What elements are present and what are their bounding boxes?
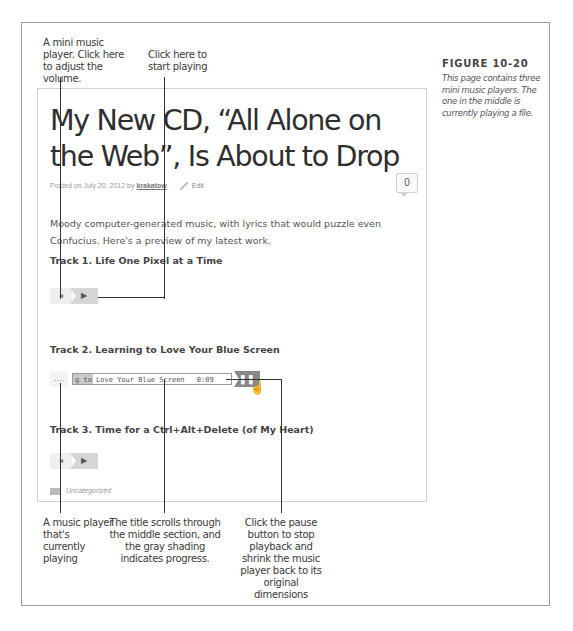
ticker-time: 0:09: [197, 376, 214, 384]
ticker-title: g to Love Your Blue Screen: [75, 376, 185, 384]
volume-icon[interactable]: ◂: [50, 453, 72, 469]
post-title[interactable]: My New CD, “All Alone on the Web”, Is Ab…: [50, 103, 420, 175]
callout-volume: A mini music player. Click here to adjus…: [43, 37, 133, 85]
author-link[interactable]: krakatow: [136, 182, 166, 189]
pencil-icon: [179, 182, 187, 190]
edit-link[interactable]: Edit: [179, 182, 204, 189]
callout-currently-playing: A music player that's currently playing: [43, 517, 113, 565]
blog-post-screenshot: My New CD, “All Alone on the Web”, Is Ab…: [37, 88, 427, 502]
folder-icon: [50, 488, 60, 495]
play-button[interactable]: ▶: [70, 453, 98, 469]
track-3-title: Track 3. Time for a Ctrl+Alt+Delete (of …: [50, 424, 314, 435]
track-1-player: ◂ ▶: [50, 288, 100, 304]
comment-count-bubble[interactable]: 0: [396, 173, 418, 193]
leader-line-play: [164, 77, 165, 299]
figure-caption: This page contains three mini music play…: [442, 73, 552, 119]
post-meta: Posted on July 20, 2012 by krakatow Edit: [50, 182, 204, 189]
leader-line-ticker: [164, 379, 165, 513]
post-intro: Moody computer-generated music, with lyr…: [50, 215, 425, 249]
track-3-player: ◂ ▶: [50, 453, 100, 469]
track-1-title: Track 1. Life One Pixel at a Time: [50, 255, 223, 266]
callout-pause: Click the pause button to stop playback …: [238, 517, 324, 601]
leader-line-playing: [60, 383, 61, 513]
leader-line-pause: [281, 379, 282, 513]
callout-play: Click here to start playing: [148, 49, 208, 73]
hand-cursor-icon: ☝: [250, 381, 265, 395]
track-ticker: g to Love Your Blue Screen 0:09: [72, 373, 232, 385]
posted-on-text: Posted on July 20, 2012 by: [50, 182, 134, 189]
figure-label: FIGURE 10-20: [442, 58, 528, 69]
volume-icon[interactable]: ◂: [50, 288, 72, 304]
leader-line-volume: [60, 77, 61, 299]
play-button[interactable]: ▶: [70, 288, 98, 304]
callout-title-scrolls: The title scrolls through the middle sec…: [107, 517, 223, 565]
volume-bars-icon[interactable]: ․…: [50, 371, 68, 387]
leader-line-pause-h: [226, 379, 282, 380]
leader-line-play-h: [98, 297, 165, 298]
track-2-title: Track 2. Learning to Love Your Blue Scre…: [50, 344, 280, 355]
